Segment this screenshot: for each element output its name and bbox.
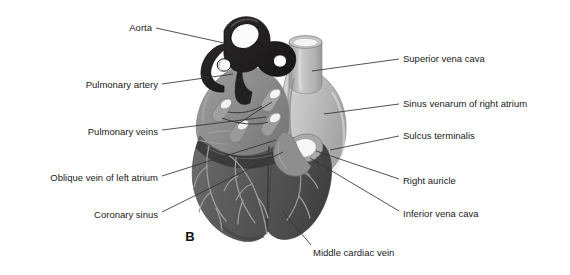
label-right-auricle: Right auricle bbox=[403, 175, 456, 186]
label-pulmonary-veins: Pulmonary veins bbox=[88, 126, 158, 137]
svc-highlight bbox=[299, 50, 301, 90]
label-sinus-venarum-of-right-atrium: Sinus venarum of right atrium bbox=[403, 98, 527, 109]
label-inferior-vena-cava: Inferior vena cava bbox=[403, 208, 479, 219]
label-superior-vena-cava: Superior vena cava bbox=[403, 53, 485, 64]
heart-anatomy-figure: Aorta Pulmonary artery Pulmonary veins O… bbox=[0, 0, 570, 275]
leader-aorta bbox=[156, 28, 224, 43]
label-middle-cardiac-vein: Middle cardiac vein bbox=[313, 247, 394, 258]
label-coronary-sinus: Coronary sinus bbox=[94, 209, 158, 220]
svc-lumen bbox=[293, 38, 318, 46]
label-sulcus-terminalis: Sulcus terminalis bbox=[403, 130, 475, 141]
label-aorta: Aorta bbox=[129, 22, 152, 33]
svc-tube-body bbox=[289, 42, 322, 94]
label-pulmonary-artery: Pulmonary artery bbox=[86, 79, 158, 90]
aortic-branch-orifice-right bbox=[273, 55, 286, 67]
heart-illustration bbox=[0, 0, 570, 275]
panel-letter-b: B bbox=[185, 229, 194, 244]
label-oblique-vein-of-left-atrium: Oblique vein of left atrium bbox=[50, 172, 158, 183]
leader-superior-vena-cava bbox=[312, 59, 399, 71]
